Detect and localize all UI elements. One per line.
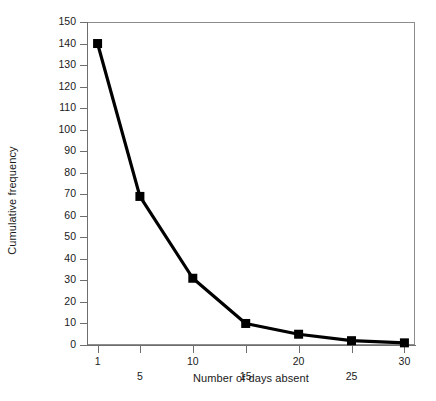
data-point-marker [347, 336, 356, 345]
data-point-marker [135, 192, 144, 201]
data-point-marker [241, 319, 250, 328]
data-point-marker [188, 274, 197, 283]
series-markers [93, 39, 409, 347]
cumulative-frequency-chart: Cumulative frequency 0102030405060708090… [0, 0, 436, 401]
data-point-marker [400, 338, 409, 347]
x-axis-title: Number of days absent [87, 372, 415, 384]
data-series-layer [0, 0, 436, 401]
data-point-marker [294, 330, 303, 339]
data-point-marker [93, 39, 102, 48]
